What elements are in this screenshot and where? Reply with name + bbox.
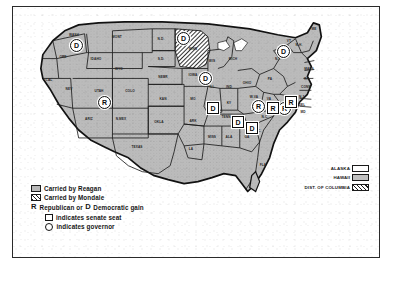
marker-senate-gain[interactable]: R — [285, 96, 297, 108]
state-label: COLO — [125, 89, 135, 93]
state-label: GA — [245, 135, 250, 139]
legend-item-party-gain: R Republican or D Democratic gain — [31, 203, 201, 212]
state-label: MICH — [229, 57, 238, 61]
state-label: N.Y. — [275, 57, 281, 61]
state-label: S.D. — [158, 57, 165, 61]
state-label: ILL — [209, 85, 214, 89]
legend-label-before: Republican or — [39, 204, 82, 211]
marker-senate-gain[interactable]: R — [267, 102, 279, 114]
state-label: TEXAS — [131, 145, 142, 149]
state-label: UTAH — [94, 89, 103, 93]
marker-governor-gain[interactable]: D — [70, 39, 83, 52]
legend-label: indicates senate seat — [56, 214, 121, 221]
state-label: NEV — [66, 87, 73, 91]
state-label: KAN — [159, 97, 166, 101]
state-label: ALA — [226, 135, 233, 139]
state-label: CONN — [301, 85, 311, 89]
map-legend: Carried by Reagan Carried by Mondale R R… — [31, 185, 201, 233]
state-label: CAL — [46, 78, 53, 82]
marker-governor-gain[interactable]: R — [252, 100, 265, 113]
territory-row-dc: DIST. OF COLUMBIA — [305, 184, 369, 191]
state-label: N.C. — [262, 115, 269, 119]
state-label: OKLA — [154, 120, 163, 124]
state-label: MINN — [189, 47, 198, 51]
marker-governor-gain[interactable]: D — [177, 32, 190, 45]
legend-label-after: Democratic gain — [93, 204, 144, 211]
state-label: WASH — [69, 33, 79, 37]
state-label: WYO — [115, 67, 123, 71]
state-label: MD — [300, 110, 305, 114]
state-label: DEL — [299, 103, 306, 107]
legend-label: indicates governor — [57, 223, 115, 230]
plain-swatch-icon — [352, 165, 369, 172]
state-label: W.VA — [250, 95, 258, 99]
state-label: IOWA — [189, 73, 198, 77]
legend-label: Carried by Mondale — [44, 194, 104, 201]
marker-governor-gain[interactable]: D — [199, 72, 212, 85]
state-label: R.I. — [304, 77, 309, 81]
state-label: WIS — [209, 59, 215, 63]
state-label: N.J. — [299, 95, 305, 99]
territory-key: ALASKA HAWAII DIST. OF COLUMBIA — [305, 165, 369, 193]
legend-item-mondale: Carried by Mondale — [31, 194, 201, 201]
marker-senate-gain[interactable]: D — [207, 102, 219, 114]
state-label: LA — [189, 147, 193, 151]
state-label: MISS — [208, 135, 216, 139]
state-label: IDAHO — [91, 57, 102, 61]
state-label: NEBR — [158, 75, 167, 79]
state-label: MONT — [112, 35, 122, 39]
map-plate-frame: WASH ORE MONT IDAHO N.D. MINN S.D. WYO C… — [12, 6, 380, 258]
state-label: KY — [227, 101, 232, 105]
state-label: MASS — [304, 67, 314, 71]
legend-item-governor: indicates governor — [45, 223, 201, 231]
state-label: ARIZ — [85, 117, 93, 121]
state-label: VA — [267, 97, 271, 101]
legend-label: Carried by Reagan — [44, 185, 101, 192]
state-label: PA — [268, 77, 272, 81]
hatched-swatch-icon — [352, 184, 369, 191]
marker-senate-gain[interactable]: D — [232, 116, 244, 128]
state-label: FLA — [260, 163, 267, 167]
state-label: VT — [287, 39, 291, 43]
marker-senate-gain[interactable]: D — [246, 122, 258, 134]
legend-item-senate-seat: indicates senate seat — [45, 214, 201, 222]
gray-fill-swatch-icon — [31, 185, 41, 192]
gray-swatch-icon — [352, 174, 369, 181]
territory-label: ALASKA — [331, 166, 350, 171]
circle-outline-icon — [45, 223, 53, 231]
republican-letter: R — [31, 203, 36, 212]
state-label: IND — [226, 85, 232, 89]
hatched-swatch-icon — [31, 194, 41, 201]
marker-governor-gain[interactable]: D — [277, 45, 290, 58]
marker-governor-gain[interactable]: R — [98, 96, 111, 109]
state-label: ORE — [59, 55, 66, 59]
territory-row-alaska: ALASKA — [305, 165, 369, 172]
state-label: N.H. — [296, 43, 303, 47]
state-label: ME — [312, 27, 317, 31]
state-label: N.MEX — [116, 117, 127, 121]
state-label: N.D. — [158, 37, 165, 41]
figure-caption — [14, 266, 30, 271]
territory-row-hawaii: HAWAII — [305, 174, 369, 181]
election-map-figure: WASH ORE MONT IDAHO N.D. MINN S.D. WYO C… — [0, 0, 393, 283]
territory-label: DIST. OF COLUMBIA — [305, 185, 350, 190]
square-outline-icon — [45, 214, 53, 222]
state-label: MO — [190, 97, 195, 101]
state-label: TENN — [221, 115, 230, 119]
state-label: ARK — [189, 119, 196, 123]
territory-label: HAWAII — [333, 175, 350, 180]
democrat-letter: D — [85, 203, 90, 212]
legend-item-reagan: Carried by Reagan — [31, 185, 201, 192]
state-label: OHIO — [243, 81, 252, 85]
